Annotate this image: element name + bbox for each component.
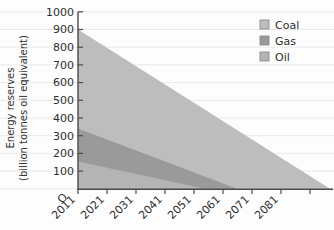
legend-swatch-gas bbox=[260, 36, 269, 45]
y-tick-label: 200 bbox=[53, 147, 74, 160]
y-axis-title: Energy reserves (billion tonnes oil equi… bbox=[5, 35, 29, 181]
legend-swatch-oil bbox=[260, 52, 269, 61]
x-tick-label: 2081 bbox=[252, 193, 281, 222]
y-tick-label: 300 bbox=[53, 130, 74, 143]
x-tick-label: 2041 bbox=[136, 193, 165, 222]
x-tick-label: 2031 bbox=[107, 193, 136, 222]
y-tick-label: 100 bbox=[53, 165, 74, 178]
y-axis-title-line2: (billion tonnes oil equivalent) bbox=[18, 35, 29, 181]
y-tick-labels: 1000 900 800 700 600 500 400 300 200 100 bbox=[46, 6, 74, 178]
x-tick-label: 2061 bbox=[194, 193, 223, 222]
area-series-group bbox=[78, 30, 330, 189]
y-tick-label: 1000 bbox=[46, 6, 74, 19]
x-tick-labels: 2011 2021 2031 2041 2051 2061 2071 2081 bbox=[49, 193, 281, 222]
x-tick-label: 2071 bbox=[223, 193, 252, 222]
energy-reserves-chart: 1000 900 800 700 600 500 400 300 200 100… bbox=[0, 0, 334, 230]
chart-canvas: 1000 900 800 700 600 500 400 300 200 100… bbox=[0, 0, 334, 230]
legend-label-oil: Oil bbox=[275, 51, 290, 64]
legend-swatch-coal bbox=[260, 20, 269, 29]
y-tick-label: 500 bbox=[53, 94, 74, 107]
y-tick-label: 600 bbox=[53, 76, 74, 89]
y-tick-label: 400 bbox=[53, 112, 74, 125]
y-axis-title-line1: Energy reserves bbox=[5, 68, 16, 149]
x-tick-label: 2021 bbox=[78, 193, 107, 222]
y-tick-label: 800 bbox=[53, 41, 74, 54]
y-tick-label: 700 bbox=[53, 59, 74, 72]
y-tick-label: 900 bbox=[53, 23, 74, 36]
x-tick-marks bbox=[78, 189, 310, 194]
legend-label-coal: Coal bbox=[275, 19, 299, 32]
x-tick-label: 2051 bbox=[165, 193, 194, 222]
x-tick-label: 2011 bbox=[49, 193, 78, 222]
chart-legend: Coal Gas Oil bbox=[260, 19, 299, 64]
legend-label-gas: Gas bbox=[275, 35, 296, 48]
